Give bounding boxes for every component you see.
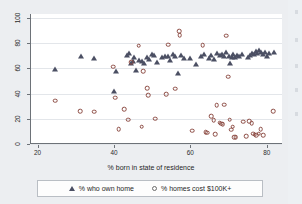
data-point-own-home — [154, 59, 160, 64]
data-point-homes-cost — [259, 127, 264, 132]
gridline — [31, 68, 282, 69]
data-point-own-home — [271, 50, 277, 55]
data-point-homes-cost — [201, 43, 206, 48]
x-tick-mark — [267, 145, 268, 148]
data-point-own-home — [141, 61, 147, 66]
strip-mark — [295, 38, 298, 42]
y-tick-mark — [27, 119, 30, 120]
data-point-homes-cost — [126, 117, 131, 122]
legend-label-own-home: % who own home — [79, 185, 134, 192]
legend-label-homes-cost: % homes cost $100K+ — [161, 185, 231, 192]
data-point-homes-cost — [141, 69, 146, 74]
x-tick-label: 20 — [34, 149, 41, 156]
data-point-homes-cost — [122, 107, 127, 112]
data-point-homes-cost — [113, 95, 118, 100]
data-point-own-home — [78, 54, 84, 59]
data-point-homes-cost — [117, 127, 122, 132]
data-point-homes-cost — [92, 109, 97, 114]
data-point-homes-cost — [233, 135, 238, 140]
data-point-homes-cost — [78, 109, 83, 114]
strip-mark — [295, 64, 298, 68]
plot-area — [30, 14, 282, 144]
chart-legend: % who own home % homes cost $100K+ — [37, 180, 263, 197]
y-tick-label: 100 — [14, 12, 21, 23]
data-point-homes-cost — [224, 33, 229, 38]
data-point-homes-cost — [139, 124, 144, 129]
data-point-homes-cost — [129, 60, 134, 65]
y-tick-label: 80 — [14, 39, 21, 46]
data-point-homes-cost — [111, 64, 116, 69]
data-point-homes-cost — [166, 42, 171, 47]
data-point-homes-cost — [53, 99, 58, 104]
gridline — [31, 43, 282, 44]
legend-item-own-home: % who own home — [69, 185, 134, 192]
data-point-own-home — [91, 55, 97, 60]
triangle-marker-icon — [69, 186, 75, 191]
x-tick-mark — [38, 145, 39, 148]
x-tick-label: 60 — [187, 149, 194, 156]
data-point-homes-cost — [205, 130, 210, 135]
data-point-own-home — [227, 61, 233, 66]
legend-item-homes-cost: % homes cost $100K+ — [152, 185, 231, 192]
data-point-own-home — [113, 69, 119, 74]
y-tick-label: 20 — [14, 115, 21, 122]
data-point-homes-cost — [230, 125, 235, 130]
data-point-own-home — [193, 61, 199, 66]
data-point-homes-cost — [211, 118, 216, 123]
data-point-own-home — [239, 52, 245, 57]
data-point-homes-cost — [227, 117, 232, 122]
x-tick-label: 40 — [110, 149, 117, 156]
data-point-homes-cost — [146, 93, 151, 98]
right-margin-strip — [288, 0, 302, 204]
y-tick-mark — [27, 144, 30, 145]
gridline — [31, 94, 282, 95]
strip-mark — [295, 88, 298, 92]
data-point-homes-cost — [220, 122, 225, 127]
data-point-homes-cost — [173, 86, 178, 91]
y-tick-mark — [27, 68, 30, 69]
data-point-own-home — [52, 66, 58, 71]
data-point-homes-cost — [213, 132, 218, 137]
data-point-homes-cost — [177, 33, 182, 38]
y-tick-label: 40 — [14, 90, 21, 97]
data-point-own-home — [133, 67, 139, 72]
data-point-homes-cost — [190, 129, 195, 134]
data-point-own-home — [187, 56, 193, 61]
y-tick-mark — [27, 94, 30, 95]
y-tick-label: 60 — [14, 65, 21, 72]
x-axis-title: % born in state of residence — [0, 164, 302, 171]
data-point-homes-cost — [271, 109, 276, 114]
data-point-homes-cost — [222, 103, 227, 108]
data-point-homes-cost — [145, 86, 150, 91]
circle-marker-icon — [152, 186, 157, 191]
scatter-chart-figure: 020406080100 20406080 % born in state of… — [0, 0, 302, 204]
data-point-own-home — [175, 71, 181, 76]
data-point-homes-cost — [214, 103, 219, 108]
y-tick-mark — [27, 43, 30, 44]
data-point-own-home — [111, 88, 117, 93]
data-point-own-home — [211, 57, 217, 62]
gridline — [31, 18, 282, 19]
data-point-homes-cost — [153, 116, 158, 121]
data-point-homes-cost — [261, 133, 266, 138]
x-tick-mark — [190, 145, 191, 148]
data-point-homes-cost — [244, 134, 249, 139]
strip-mark — [295, 112, 298, 116]
strip-mark — [295, 10, 298, 14]
data-point-homes-cost — [241, 119, 246, 124]
x-tick-mark — [114, 145, 115, 148]
y-tick-label: 0 — [14, 142, 21, 146]
data-point-homes-cost — [164, 92, 169, 97]
x-tick-label: 80 — [263, 149, 270, 156]
data-point-own-home — [151, 53, 157, 58]
gridline — [31, 144, 282, 145]
data-point-homes-cost — [249, 121, 254, 126]
data-point-homes-cost — [226, 74, 231, 79]
data-point-homes-cost — [136, 44, 141, 49]
y-tick-mark — [27, 18, 30, 19]
